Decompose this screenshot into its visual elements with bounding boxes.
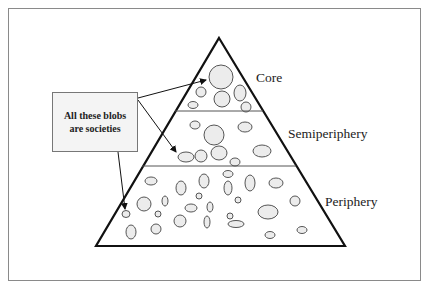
arrow-to-periphery	[118, 152, 125, 209]
tier-label-core: Core	[256, 70, 282, 86]
tier-label-semiperiphery: Semiperiphery	[288, 126, 367, 142]
core-blobs	[188, 65, 251, 112]
callout-box: All these blobs are societies	[52, 92, 138, 152]
periphery-blobs	[122, 171, 307, 240]
semiperiphery-blobs	[178, 121, 271, 166]
callout-line-1: All these blobs	[64, 109, 126, 122]
callout-line-2: are societies	[64, 122, 126, 135]
arrow-to-core	[138, 80, 206, 98]
tier-label-periphery: Periphery	[325, 194, 377, 210]
